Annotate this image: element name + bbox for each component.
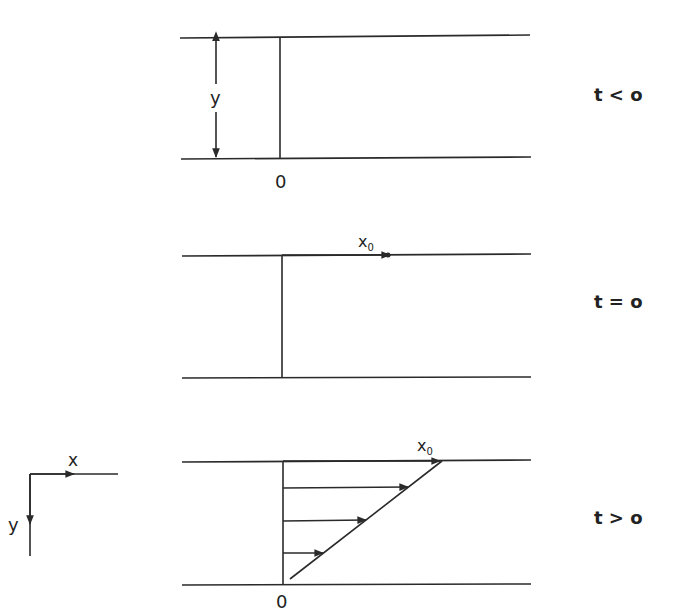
velocity-arrow-2-icon (283, 520, 366, 521)
gap-dimension-label: y (210, 87, 221, 108)
origin-label: 0 (275, 171, 286, 192)
top-plate (180, 35, 530, 38)
x-axis-label: x (68, 450, 78, 470)
origin-label: 0 (276, 591, 287, 612)
bottom-plate (182, 584, 531, 585)
panel-start: x0 t = o (182, 232, 643, 378)
time-label-after: t > o (594, 507, 643, 528)
panel-before: y 0 t < o (180, 35, 643, 192)
bottom-plate (181, 157, 531, 159)
x0-label: x0 (358, 232, 374, 253)
time-label-before: t < o (594, 84, 643, 105)
x0-label: x0 (417, 436, 433, 457)
velocity-arrow-1-icon (283, 487, 408, 488)
time-label-start: t = o (594, 291, 643, 312)
bottom-plate (182, 377, 531, 378)
reference-axes: x y (8, 450, 118, 556)
y-axis-label: y (8, 514, 19, 535)
panel-after: x0 0 t > o (182, 436, 643, 612)
shear-flow-diagram: x y y 0 t < o x0 t = o x0 0 t > o (0, 0, 680, 613)
x0-marker-dot-icon (386, 253, 391, 258)
